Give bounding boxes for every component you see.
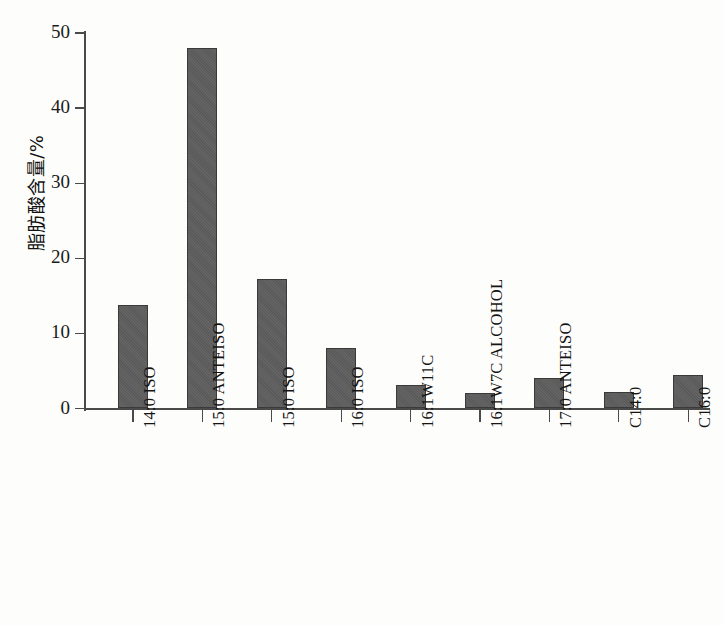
y-tick-mark <box>75 258 84 259</box>
y-tick-label: 10 <box>36 322 70 341</box>
x-tick-mark <box>549 409 550 422</box>
x-tick-mark <box>410 409 411 422</box>
y-tick-label-wrap: 50 <box>28 22 70 42</box>
x-tick-label: C16:0 <box>695 387 715 428</box>
y-tick-mark <box>75 183 84 184</box>
x-tick-mark <box>271 409 272 422</box>
y-tick-mark <box>75 408 84 409</box>
x-tick-label: 16:1W11C <box>418 355 438 428</box>
x-tick-label: 14:0 ISO <box>140 366 160 428</box>
x-tick-label: C14:0 <box>626 387 646 428</box>
y-tick-label: 50 <box>36 22 70 41</box>
y-tick-label: 0 <box>36 398 70 417</box>
y-tick-label-wrap: 10 <box>28 322 70 342</box>
x-tick-label: 16:1W7C ALCOHOL <box>487 279 507 428</box>
y-tick-mark <box>75 333 84 334</box>
y-tick-label-wrap: 0 <box>28 398 70 418</box>
x-tick-mark <box>341 409 342 422</box>
x-tick-mark <box>618 409 619 422</box>
plot-area <box>84 33 710 409</box>
y-tick-mark <box>75 32 84 33</box>
y-axis-title: 脂肪酸含量/% <box>22 63 48 323</box>
x-tick-label: 16:0 ISO <box>348 366 368 428</box>
x-tick-mark <box>688 409 689 422</box>
x-tick-label: 15:0 ISO <box>279 366 299 428</box>
x-tick-mark <box>132 409 133 422</box>
x-tick-label: 17:0 ANTEISO <box>556 322 576 428</box>
x-tick-label: 15:0 ANTEISO <box>209 322 229 428</box>
y-tick-mark <box>75 107 84 108</box>
bar-chart-figure: 01020304050 脂肪酸含量/% 14:0 ISO15:0 ANTEISO… <box>0 0 724 625</box>
x-tick-mark <box>202 409 203 422</box>
x-tick-mark <box>479 409 480 422</box>
